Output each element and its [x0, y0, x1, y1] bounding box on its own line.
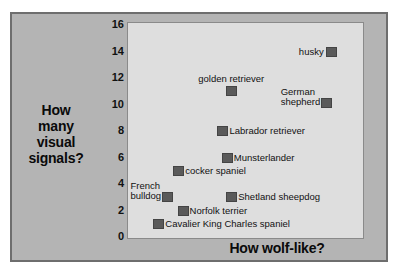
y-axis-ticks: 0246810121416 [90, 14, 124, 264]
y-axis-title: How many visual signals? [18, 102, 94, 166]
data-point-marker [153, 219, 164, 229]
data-point-marker [226, 192, 237, 202]
data-point-label: Frenchbulldog [131, 181, 162, 201]
data-point-label: Norfolk terrier [190, 206, 248, 216]
data-point-marker [222, 153, 233, 163]
y-axis-tick-label: 10 [98, 98, 124, 109]
data-point-label-line: shepherd [281, 97, 321, 107]
y-axis-tick-label: 14 [98, 45, 124, 56]
chart-panel: How many visual signals? 0246810121416 h… [10, 12, 388, 262]
data-point-marker [173, 166, 184, 176]
data-point-label-line: bulldog [131, 191, 162, 201]
y-axis-tick-label: 16 [98, 19, 124, 30]
y-axis-tick-label: 0 [98, 231, 124, 242]
x-axis-title: How wolf-like? [172, 240, 382, 256]
data-point-marker [326, 47, 337, 57]
data-point-marker [162, 192, 173, 202]
y-axis-tick-label: 8 [98, 125, 124, 136]
data-point-label: husky [299, 47, 324, 57]
data-point-label: Cavalier King Charles spaniel [165, 219, 290, 229]
y-axis-title-line: signals? [18, 150, 94, 166]
y-axis-title-line: How [18, 102, 94, 118]
plot-area: huskygolden retrieverGermanshepherdLabra… [127, 22, 364, 239]
data-point-label: golden retriever [198, 74, 264, 84]
y-axis-title-line: visual [18, 134, 94, 150]
y-axis-tick-label: 6 [98, 151, 124, 162]
data-point-label: cocker spaniel [185, 166, 246, 176]
y-axis-tick-label: 2 [98, 204, 124, 215]
data-point-marker [217, 126, 228, 136]
y-axis-title-line: many [18, 118, 94, 134]
data-point-label: Germanshepherd [281, 87, 321, 107]
data-point-label: Shetland sheepdog [238, 192, 320, 202]
data-point-label: Labrador retriever [229, 126, 305, 136]
y-axis-tick-label: 4 [98, 178, 124, 189]
data-point-marker [321, 98, 332, 108]
data-point-label: Munsterlander [234, 153, 295, 163]
data-point-marker [226, 86, 237, 96]
scatter-chart: How many visual signals? 0246810121416 h… [0, 0, 397, 278]
data-point-marker [178, 206, 189, 216]
y-axis-tick-label: 12 [98, 72, 124, 83]
